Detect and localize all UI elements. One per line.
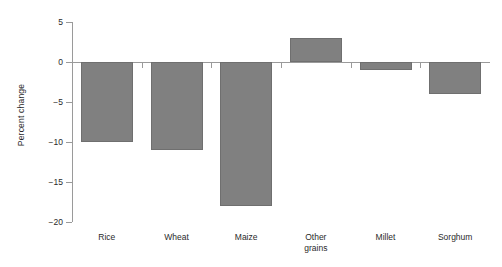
y-tick-label: 0 <box>58 57 63 67</box>
y-tick-mark <box>66 222 72 223</box>
y-tick-label: −15 <box>49 177 63 187</box>
bar-series <box>72 22 490 222</box>
x-axis-labels: RiceWheatMaizeOther grainsMilletSorghum <box>72 232 490 266</box>
bar <box>220 62 272 206</box>
y-tick-label: −5 <box>53 97 63 107</box>
x-tick-label: Other grains <box>304 232 327 253</box>
x-tick-label: Maize <box>235 232 258 243</box>
bar <box>290 38 342 62</box>
bar <box>151 62 203 150</box>
bar <box>81 62 133 142</box>
y-axis-title: Percent change <box>10 0 32 230</box>
bar-chart: Percent change 50−5−10−15−20 RiceWheatMa… <box>0 0 502 267</box>
y-tick-label: 5 <box>58 17 63 27</box>
x-tick-label: Rice <box>98 232 115 243</box>
bar <box>429 62 481 94</box>
bar <box>360 62 412 70</box>
x-tick-label: Wheat <box>164 232 189 243</box>
x-tick-label: Millet <box>376 232 396 243</box>
plot-area: 50−5−10−15−20 <box>72 22 490 222</box>
y-axis-title-text: Percent change <box>16 84 26 146</box>
y-tick-label: −10 <box>49 137 63 147</box>
y-tick-label: −20 <box>49 217 63 227</box>
x-tick-label: Sorghum <box>438 232 473 243</box>
